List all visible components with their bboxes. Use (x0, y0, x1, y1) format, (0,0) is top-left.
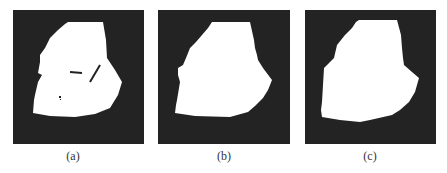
caption-b: (b) (204, 149, 244, 164)
figure: (a) (b) (c) (0, 0, 447, 173)
mask-hole (60, 99, 61, 100)
figure-panels (0, 0, 447, 173)
mask-hole (59, 96, 61, 98)
panel-c (305, 10, 436, 144)
caption-a: (a) (53, 149, 93, 164)
panel-b (158, 10, 290, 144)
panel-a (13, 10, 144, 144)
mask-hole (70, 72, 82, 73)
caption-c: (c) (350, 149, 390, 164)
